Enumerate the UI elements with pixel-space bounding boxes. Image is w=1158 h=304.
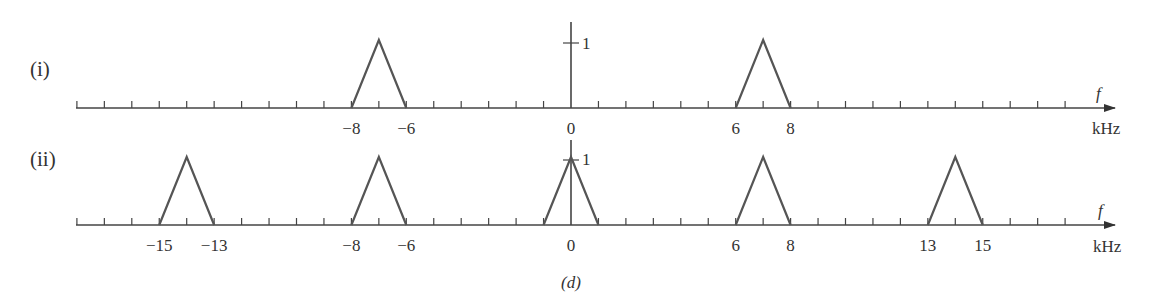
triangle-spectrum [736, 157, 791, 225]
spectrum-row-i: (i) 1 −8−6068 f kHz [30, 22, 1121, 138]
axis-unit-label-i: kHz [1092, 119, 1121, 138]
axis-unit-label-ii: kHz [1093, 237, 1122, 256]
spectrum-row-ii: (ii) 1 −15−13−8−60681315 f kHz [30, 140, 1122, 256]
tick-label: 8 [786, 236, 795, 255]
axis-var-label-i: f [1096, 84, 1103, 103]
triangle-spectrum [736, 40, 791, 108]
axis-var-label-ii: f [1098, 201, 1105, 220]
tick-label: 13 [919, 236, 936, 255]
row-label-i: (i) [30, 57, 50, 81]
tick-label: 6 [731, 119, 740, 138]
tick-label: 0 [567, 119, 576, 138]
amplitude-label-ii: 1 [582, 150, 591, 169]
tick-label: 15 [974, 236, 991, 255]
tick-label: 6 [731, 236, 740, 255]
triangle-spectrum [928, 157, 983, 225]
spectrum-diagram: (i) 1 −8−6068 f kHz (ii) 1 −15−13−8−6068… [0, 0, 1158, 304]
tick-label: 0 [567, 236, 576, 255]
triangle-spectrum [351, 40, 406, 108]
tick-label: −8 [342, 119, 360, 138]
figure-caption: (d) [561, 273, 581, 292]
tick-label: −8 [342, 236, 360, 255]
tick-label: −15 [146, 236, 173, 255]
tick-label: −6 [397, 236, 415, 255]
row-label-ii: (ii) [30, 147, 56, 171]
tick-label: −13 [201, 236, 228, 255]
tick-label: 8 [786, 119, 795, 138]
amplitude-label-i: 1 [582, 34, 591, 53]
tick-labels-i: −8−6068 [342, 119, 794, 138]
tick-label: −6 [397, 119, 415, 138]
triangle-spectrum [351, 157, 406, 225]
triangle-spectrum [159, 157, 214, 225]
tick-labels-ii: −15−13−8−60681315 [146, 236, 991, 255]
